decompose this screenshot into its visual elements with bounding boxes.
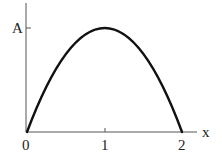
x-tick-label-1: 1 <box>101 137 109 153</box>
y-tick-label-A: A <box>12 20 23 36</box>
parabola-curve <box>27 28 182 132</box>
x-tick-label-0: 0 <box>22 137 30 153</box>
x-axis-label: x <box>202 124 210 140</box>
x-tick-label-2: 2 <box>178 137 186 153</box>
chart-canvas: A 0 1 2 x <box>0 0 222 159</box>
